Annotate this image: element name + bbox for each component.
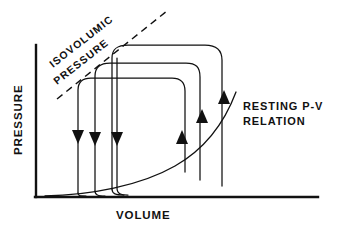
- pv-loop-chart-canvas: ISOVOLUMIC PRESSURE RESTING P-V RELATION…: [0, 0, 340, 228]
- down-arrow-1-icon: [72, 130, 84, 144]
- pv-loop-middle-group: [95, 63, 200, 191]
- pv-loop-outer-path: [112, 45, 222, 189]
- up-arrow-2-icon: [196, 109, 208, 123]
- x-axis-label-group: VOLUME: [116, 209, 171, 221]
- x-axis-label: VOLUME: [116, 209, 171, 221]
- pv-loop-middle-path: [95, 63, 200, 191]
- y-axis-label: PRESSURE: [12, 85, 24, 155]
- up-arrow-1-icon: [176, 130, 188, 144]
- resting-pv-relation-label-group: RESTING P-V RELATION: [243, 100, 323, 127]
- pv-loop-outer-group: [112, 45, 222, 189]
- y-axis-label-group: PRESSURE: [12, 85, 24, 155]
- isovolumic-pressure-label-group: ISOVOLUMIC PRESSURE: [47, 12, 115, 86]
- up-arrow-3-icon: [218, 90, 230, 104]
- resting-pv-relation-label-line2: RELATION: [243, 115, 306, 127]
- flow-arrows-group: [72, 90, 230, 146]
- down-arrow-2-icon: [89, 132, 101, 146]
- down-arrow-3-icon: [111, 132, 123, 146]
- pv-loop-figure: ISOVOLUMIC PRESSURE RESTING P-V RELATION…: [0, 0, 340, 228]
- resting-pv-relation-group: [45, 92, 236, 196]
- resting-pv-relation-curve: [45, 92, 236, 196]
- resting-pv-relation-label-line1: RESTING P-V: [243, 100, 323, 112]
